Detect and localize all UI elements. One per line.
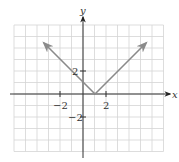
absolute-value-graph-right (95, 43, 146, 94)
x-tick-label-neg2: −2 (53, 100, 68, 111)
x-axis-label: x (172, 89, 178, 100)
y-axis-label: y (79, 5, 86, 16)
coordinate-plane: x y −2 2 2 −2 (0, 0, 179, 162)
x-tick-label-pos2: 2 (103, 100, 109, 111)
y-tick-label-pos2: 2 (72, 66, 78, 77)
absolute-value-graph (44, 43, 95, 94)
y-tick-label-neg2: −2 (68, 112, 83, 123)
